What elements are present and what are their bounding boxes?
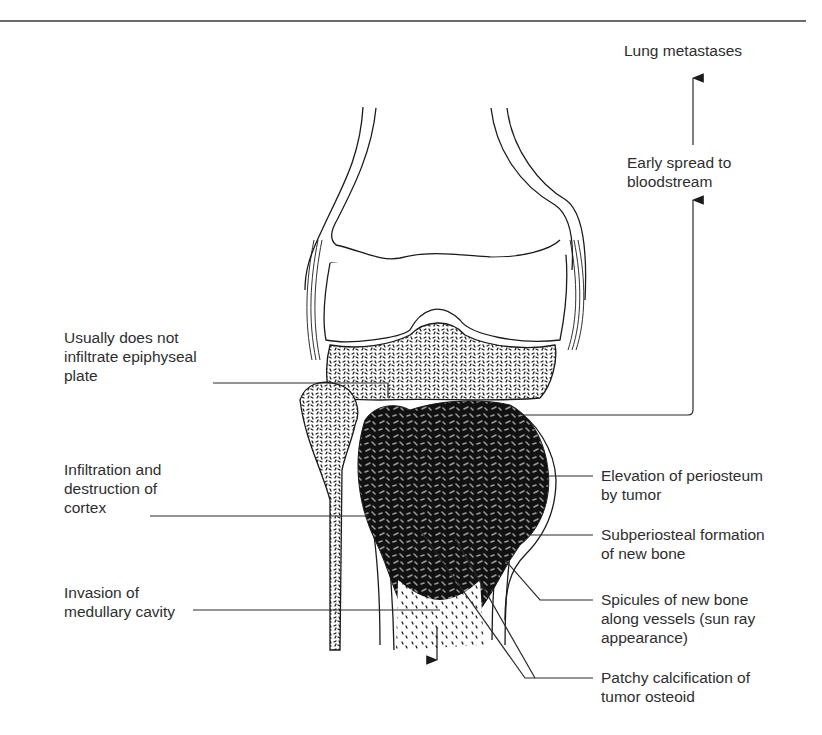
label-text: Elevation of periosteum	[601, 466, 763, 485]
label-medullary-cavity: Invasion of medullary cavity	[64, 583, 175, 621]
label-text: Patchy calcification of	[601, 668, 750, 687]
label-text: Lung metastases	[624, 41, 742, 60]
label-text: along vessels (sun ray	[601, 609, 755, 628]
label-text: medullary cavity	[64, 602, 175, 621]
label-text: Usually does not	[64, 328, 197, 347]
label-text: infiltrate epiphyseal	[64, 347, 197, 366]
label-text: by tumor	[601, 485, 763, 504]
label-text: Spicules of new bone	[601, 590, 755, 609]
label-text: destruction of	[64, 479, 161, 498]
label-spicules: Spicules of new bone along vessels (sun …	[601, 590, 755, 647]
diagram-canvas: Lung metastases Early spread to bloodstr…	[0, 0, 822, 735]
label-text: Infiltration and	[64, 460, 161, 479]
label-epiphyseal-plate: Usually does not infiltrate epiphyseal p…	[64, 328, 197, 385]
label-text: tumor osteoid	[601, 687, 750, 706]
label-text: of new bone	[601, 544, 765, 563]
label-text: plate	[64, 366, 197, 385]
label-early-spread: Early spread to bloodstream	[627, 153, 731, 191]
label-text: appearance)	[601, 628, 755, 647]
label-text: Subperiosteal formation	[601, 525, 765, 544]
label-periosteum: Elevation of periosteum by tumor	[601, 466, 763, 504]
label-text: bloodstream	[627, 172, 731, 191]
label-lung-metastases: Lung metastases	[624, 41, 742, 60]
tumor-mass	[358, 401, 549, 625]
label-calcification: Patchy calcification of tumor osteoid	[601, 668, 750, 706]
label-text: Invasion of	[64, 583, 175, 602]
label-subperiosteal: Subperiosteal formation of new bone	[601, 525, 765, 563]
label-text: Early spread to	[627, 153, 731, 172]
label-cortex: Infiltration and destruction of cortex	[64, 460, 161, 517]
label-text: cortex	[64, 498, 161, 517]
